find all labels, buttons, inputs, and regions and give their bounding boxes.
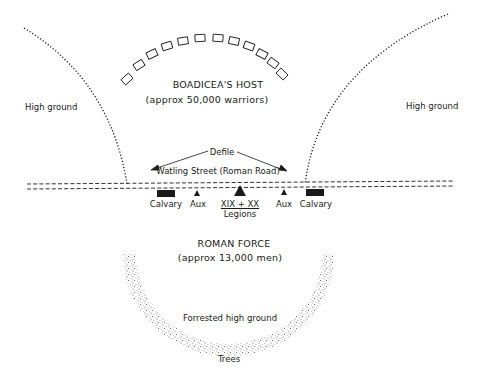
- right-high-ground-boundary: [305, 14, 448, 184]
- label-host-size: (approx 50,000 warriors): [146, 95, 269, 105]
- label-aux-right: Aux: [276, 199, 292, 209]
- map-graphics: [0, 0, 479, 385]
- calvary-right-block: [306, 189, 324, 196]
- legions-marker: [234, 185, 246, 196]
- label-forest: Forrested high ground: [183, 313, 277, 323]
- forest-arc: [123, 254, 334, 356]
- boadicea-host-units: [121, 34, 288, 85]
- road-north-edge: [27, 181, 455, 184]
- aux-left-marker: [194, 190, 200, 196]
- label-roman-title: ROMAN FORCE: [198, 239, 271, 249]
- label-calvary-left: Calvary: [150, 199, 182, 209]
- aux-right-marker: [281, 189, 287, 195]
- calvary-left-block: [157, 190, 175, 197]
- battle-map: High ground High ground BOADICEA'S HOST …: [0, 0, 479, 385]
- label-legions: Legions: [224, 209, 257, 219]
- label-aux-left: Aux: [190, 199, 206, 209]
- label-roman-size: (approx 13,000 men): [178, 253, 282, 263]
- label-trees: Trees: [218, 354, 240, 364]
- label-road: Watling Street (Roman Road): [156, 166, 279, 176]
- label-calvary-right: Calvary: [300, 199, 332, 209]
- label-defile: Defile: [210, 147, 235, 157]
- label-high-ground-left: High ground: [25, 102, 77, 112]
- label-legions-numerals: XIX + XX: [221, 199, 259, 209]
- label-host-title: BOADICEA'S HOST: [173, 80, 264, 90]
- label-high-ground-right: High ground: [406, 101, 458, 111]
